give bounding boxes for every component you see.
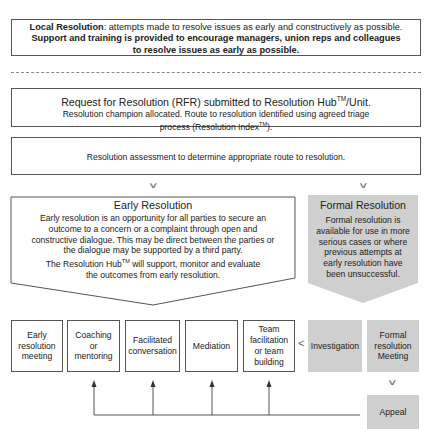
option-label: building <box>250 357 288 368</box>
option-label: Formal <box>374 330 411 341</box>
appeal-box: Appeal <box>367 395 419 429</box>
arrow-up-icon <box>210 380 215 387</box>
formal-line: Formal resolution is <box>308 215 418 226</box>
option-mediation: Mediation <box>185 320 238 372</box>
arrow-up-icon <box>267 380 272 387</box>
option-team-facilitation: Teamfacilitationor teambuilding <box>243 320 295 372</box>
option-label: facilitation <box>250 335 288 346</box>
option-label: Facilitated <box>128 335 177 346</box>
option-label: Meeting <box>374 351 411 362</box>
option-label: Early <box>18 330 55 341</box>
option-investigation: Investigation <box>308 320 362 372</box>
option-label: conversation <box>128 346 177 357</box>
option-label: Team <box>250 324 288 335</box>
option-label: Investigation <box>311 341 359 352</box>
chevron-down-icon: ∨ <box>387 378 398 387</box>
option-label: Mediation <box>193 341 230 352</box>
formal-line: previous attempts at <box>308 247 418 258</box>
formal-resolution-body: Formal resolution is available for use i… <box>308 215 418 280</box>
option-formal-resolution-meeting: FormalresolutionMeeting <box>367 320 419 372</box>
trademark: TM <box>122 258 130 264</box>
early-line: the outcomes from early resolution. <box>11 270 295 281</box>
arrow-up-icon <box>151 380 156 387</box>
chevron-left-icon: < <box>298 337 304 349</box>
formal-line: early resolution have <box>308 258 418 269</box>
option-label: or team <box>250 346 288 357</box>
option-label: resolution <box>374 341 411 352</box>
early-line: the dialogue may be supported by a third… <box>11 245 295 256</box>
formal-line: available for use in more <box>308 226 418 237</box>
option-label: or <box>74 341 112 352</box>
appeal-label: Appeal <box>380 407 407 417</box>
option-coaching-or-mentoring: Coachingormentoring <box>67 320 120 372</box>
formal-line: been unsuccessful. <box>308 269 418 280</box>
early-line: Early resolution is an opportunity for a… <box>11 213 295 224</box>
early-line: outcome to a concern or a complaint thro… <box>11 224 295 235</box>
early-line5-text: The Resolution Hub <box>46 259 122 269</box>
formal-resolution-title: Formal Resolution <box>308 198 418 212</box>
option-label: mentoring <box>74 351 112 362</box>
option-label: Coaching <box>74 330 112 341</box>
early-resolution-title: Early Resolution <box>11 198 295 212</box>
option-label: resolution <box>18 341 55 352</box>
early-line: The Resolution HubTM will support, monit… <box>11 256 295 270</box>
formal-line: serious cases or where <box>308 237 418 248</box>
option-label: meeting <box>18 351 55 362</box>
option-early-resolution-meeting: Earlyresolutionmeeting <box>11 320 63 372</box>
early-line5-suffix: will support, monitor and evaluate <box>130 259 260 269</box>
arrow-up-icon <box>92 380 97 387</box>
option-facilitated-conversation: Facilitatedconversation <box>125 320 180 372</box>
early-resolution-body: Early resolution is an opportunity for a… <box>11 213 295 281</box>
early-line: constructive dialogue. This may be direc… <box>11 235 295 246</box>
